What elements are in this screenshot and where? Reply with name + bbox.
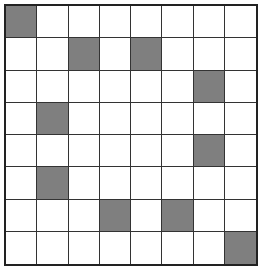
grid-cell xyxy=(69,103,100,135)
grid-cell-shaded xyxy=(225,232,256,264)
grid-cell xyxy=(162,135,193,167)
grid-cell xyxy=(6,167,37,199)
grid-cell xyxy=(69,232,100,264)
grid-cell xyxy=(37,135,68,167)
grid-cell xyxy=(131,232,162,264)
grid-cell xyxy=(225,200,256,232)
grid-cell xyxy=(194,38,225,70)
grid-cell-shaded xyxy=(131,38,162,70)
grid-cell xyxy=(100,71,131,103)
grid-cell xyxy=(37,200,68,232)
grid-cell xyxy=(131,103,162,135)
grid-cell-shaded xyxy=(194,135,225,167)
grid-cell-shaded xyxy=(37,167,68,199)
grid-cell xyxy=(194,167,225,199)
grid-cell xyxy=(162,232,193,264)
grid-cell xyxy=(225,38,256,70)
grid-cell xyxy=(6,38,37,70)
grid-cell xyxy=(100,103,131,135)
grid-cell xyxy=(194,232,225,264)
grid-cell xyxy=(37,6,68,38)
grid-cell-shaded xyxy=(69,38,100,70)
grid-cell xyxy=(131,71,162,103)
grid-cell xyxy=(69,71,100,103)
grid-cell xyxy=(100,167,131,199)
grid-board xyxy=(4,4,258,266)
grid-cell xyxy=(37,71,68,103)
grid-cell xyxy=(69,6,100,38)
grid-cell xyxy=(100,135,131,167)
grid-cell xyxy=(225,6,256,38)
grid-cell xyxy=(131,6,162,38)
grid-cell xyxy=(225,135,256,167)
grid-cell xyxy=(194,103,225,135)
grid-cell xyxy=(37,38,68,70)
grid-cell xyxy=(131,167,162,199)
grid-cell-shaded xyxy=(194,71,225,103)
grid-cell xyxy=(162,103,193,135)
grid-cell xyxy=(225,103,256,135)
grid-cell xyxy=(225,167,256,199)
grid-cell xyxy=(131,135,162,167)
grid-cell xyxy=(225,71,256,103)
grid-cell xyxy=(194,6,225,38)
grid-cell xyxy=(37,232,68,264)
grid-cell-shaded xyxy=(6,6,37,38)
grid-cell xyxy=(69,167,100,199)
grid-cell xyxy=(131,200,162,232)
grid-cell xyxy=(6,200,37,232)
grid-cell xyxy=(6,103,37,135)
grid-cell-shaded xyxy=(162,200,193,232)
grid-cell xyxy=(69,200,100,232)
grid-cell xyxy=(6,232,37,264)
grid-cell xyxy=(194,200,225,232)
grid-cell xyxy=(100,38,131,70)
grid-cell-shaded xyxy=(100,200,131,232)
grid-cell xyxy=(69,135,100,167)
grid-cell-shaded xyxy=(37,103,68,135)
grid-cell xyxy=(162,38,193,70)
grid-cell xyxy=(100,6,131,38)
grid-cell xyxy=(6,71,37,103)
grid-cell xyxy=(162,6,193,38)
grid-cell xyxy=(100,232,131,264)
grid-cell xyxy=(162,167,193,199)
grid-cell xyxy=(162,71,193,103)
grid-cell xyxy=(6,135,37,167)
